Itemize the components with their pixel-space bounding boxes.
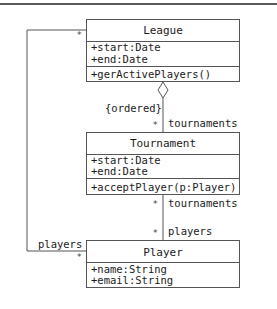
tournament-attr-end: +end:Date <box>91 165 148 177</box>
league-multiplicity-star: * <box>77 30 82 40</box>
player-side-multiplicity-star: * <box>153 228 158 238</box>
league-attr-end: +end:Date <box>91 53 148 65</box>
tournaments-role-label-bottom: tournaments <box>168 197 238 209</box>
players-role-label: players <box>168 225 212 237</box>
class-league[interactable]: League +start:Date +end:Date +gerActiveP… <box>87 20 240 82</box>
tournaments-role-label-top: tournaments <box>168 117 238 129</box>
league-player-role-label: players <box>38 238 82 250</box>
uml-diagram-canvas: * players * {ordered} * tournaments * to… <box>0 0 277 309</box>
league-class-name: League <box>143 24 183 37</box>
league-attr-start: +start:Date <box>91 41 161 53</box>
player-attr-email: +email:String <box>91 274 173 286</box>
player-multiplicity-star-left: * <box>77 252 82 262</box>
ordered-constraint-label: {ordered} <box>105 102 162 114</box>
league-player-association-line <box>27 30 86 251</box>
class-player[interactable]: Player +name:String +email:String <box>87 241 240 288</box>
tournament-multiplicity-star: * <box>153 120 158 130</box>
player-class-name: Player <box>143 246 183 259</box>
tournament-op-acceptplayer: +acceptPlayer(p:Player) <box>91 181 236 193</box>
aggregation-diamond-icon <box>158 82 168 98</box>
tournament-side-multiplicity-star: * <box>153 199 158 209</box>
class-tournament[interactable]: Tournament +start:Date +end:Date +accept… <box>87 133 240 195</box>
league-op-getactiveplayers: +gerActivePlayers() <box>91 68 211 80</box>
tournament-class-name: Tournament <box>130 137 196 150</box>
